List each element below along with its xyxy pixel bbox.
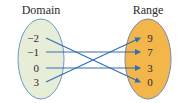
domain-label: Domain <box>22 3 61 17</box>
mapping-diagram: Domain Range −2−103 9730 <box>0 0 183 103</box>
range-value: 3 <box>147 62 153 74</box>
domain-value: −1 <box>27 46 39 58</box>
domain-ellipse <box>18 19 64 99</box>
range-value: 7 <box>147 46 153 58</box>
range-value: 0 <box>147 76 153 88</box>
domain-value: 0 <box>34 62 40 74</box>
range-label: Range <box>133 3 164 17</box>
domain-value: 3 <box>34 76 40 88</box>
domain-value: −2 <box>27 32 39 44</box>
range-value: 9 <box>147 32 153 44</box>
